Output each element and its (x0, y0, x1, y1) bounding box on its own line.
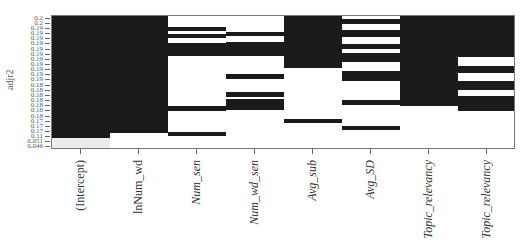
x-tick-label: Avg_sub (305, 160, 320, 248)
x-tick (486, 149, 487, 154)
x-tick-label: lnNum_wd (131, 160, 146, 248)
y-tick (45, 69, 50, 70)
y-tick (45, 33, 50, 34)
y-tick (45, 38, 50, 39)
heatmap-cell (226, 74, 284, 79)
heatmap-cell (458, 16, 515, 57)
x-tick (138, 149, 139, 154)
heatmap-cell (110, 16, 168, 133)
y-tick (45, 74, 50, 75)
heatmap-cell (226, 92, 284, 97)
x-tick-label: Topic_relevancy (479, 160, 494, 248)
y-tick (45, 23, 50, 24)
y-tick (45, 126, 50, 127)
y-tick (45, 141, 50, 142)
y-tick-label: 0.046 (27, 142, 43, 150)
y-tick (45, 85, 50, 86)
plot-area (51, 15, 515, 149)
heatmap-cell (168, 106, 226, 111)
y-tick (45, 121, 50, 122)
y-tick (45, 116, 50, 117)
x-tick-label: Num_wd_sen (247, 160, 262, 248)
x-tick-label: Avg_SD (363, 160, 378, 248)
x-tick-label: (Intercept) (73, 160, 88, 248)
heatmap-cell (52, 138, 110, 149)
x-tick (312, 149, 313, 154)
heatmap-cell (400, 16, 458, 106)
heatmap-cell (226, 32, 284, 36)
heatmap-cell (458, 96, 515, 111)
heatmap-cell (342, 71, 400, 81)
heatmap-cell (168, 132, 226, 136)
y-tick (45, 136, 50, 137)
heatmap-cell (226, 42, 284, 56)
heatmap-cell (342, 100, 400, 105)
x-tick (428, 149, 429, 154)
heatmap-cell (168, 27, 226, 31)
heatmap-cell (458, 81, 515, 90)
y-tick (45, 79, 50, 80)
x-tick (254, 149, 255, 154)
y-tick (45, 59, 50, 60)
heatmap-cell (342, 126, 400, 130)
heatmap-cell (342, 44, 400, 49)
y-tick (45, 105, 50, 106)
y-tick (45, 110, 50, 111)
y-tick (45, 131, 50, 132)
y-tick (45, 95, 50, 96)
x-tick-label: Num_sen (189, 160, 204, 248)
y-axis-title: adjr2 (4, 69, 15, 90)
y-tick (45, 90, 50, 91)
y-tick (45, 43, 50, 44)
x-tick (370, 149, 371, 154)
heatmap-cell (168, 34, 226, 38)
y-tick (45, 28, 50, 29)
y-tick (45, 146, 50, 147)
heatmap-cell (342, 53, 400, 62)
y-tick (45, 64, 50, 65)
heatmap-cell (52, 16, 110, 138)
y-tick (45, 54, 50, 55)
x-tick (196, 149, 197, 154)
y-tick (45, 49, 50, 50)
heatmap-cell (342, 30, 400, 37)
heatmap-cell (284, 16, 342, 68)
x-tick (80, 149, 81, 154)
y-tick (45, 100, 50, 101)
heatmap-cell (342, 19, 400, 24)
heatmap-cell (226, 99, 284, 110)
heatmap-cell (168, 43, 226, 56)
x-tick-label: Topic_relevancy (421, 160, 436, 248)
y-tick (45, 18, 50, 19)
heatmap-cell (284, 119, 342, 123)
heatmap-cell (458, 66, 515, 73)
